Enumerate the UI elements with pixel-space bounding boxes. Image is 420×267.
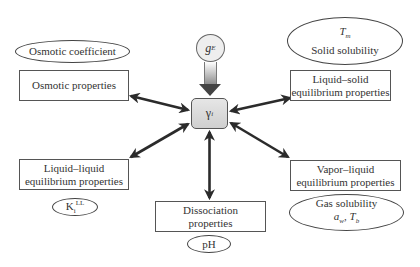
ki-ll-ellipse: KiLL	[52, 198, 98, 216]
k-subscript: i	[74, 206, 76, 214]
gas-solubility-ellipse: Gas solubility aw, Tb	[289, 194, 404, 231]
osmotic-coefficient-ellipse: Osmotic coefficient	[15, 40, 130, 63]
osmotic-coefficient-label: Osmotic coefficient	[29, 45, 116, 58]
vapor-liquid-line2: equilibrium properties	[296, 176, 394, 189]
aw-tb-label: aw, Tb	[334, 210, 359, 228]
dissociation-line2: properties	[189, 217, 233, 230]
dissociation-line1: Dissociation	[183, 204, 238, 217]
gamma-subscript: i	[211, 110, 213, 118]
gas-solubility-label: Gas solubility	[316, 197, 377, 210]
liquid-liquid-box: Liquid–liquid equilibrium properties	[19, 159, 129, 190]
vapor-liquid-line1: Vapor–liquid	[317, 163, 374, 176]
tb-subscript: b	[356, 217, 360, 225]
osmotic-properties-box: Osmotic properties	[19, 70, 129, 101]
gradient-arrow-shaft	[204, 62, 217, 85]
arrow-vapor-liquid	[231, 123, 288, 157]
arrow-liquid-solid	[231, 98, 290, 111]
tm-label: Tm	[339, 25, 350, 43]
liquid-liquid-line1: Liquid–liquid	[44, 162, 105, 175]
tm-subscript: m	[346, 33, 351, 41]
ph-label: pH	[202, 238, 215, 251]
liquid-liquid-line2: equilibrium properties	[25, 175, 123, 188]
osmotic-properties-label: Osmotic properties	[32, 79, 116, 92]
arrow-osmotic	[131, 96, 188, 110]
gradient-arrow-head	[199, 84, 221, 96]
liquid-solid-line1: Liquid–solid	[312, 73, 368, 86]
liquid-solid-line2: equilibrium properties	[291, 86, 389, 99]
k-superscript: LL	[76, 199, 85, 207]
ge-superscript: E	[211, 44, 215, 52]
arrow-liquid-liquid	[131, 124, 188, 157]
vapor-liquid-box: Vapor–liquid equilibrium properties	[290, 160, 401, 191]
ki-ll-label: KiLL	[66, 197, 84, 218]
excess-gibbs-node: gE	[196, 34, 225, 62]
solid-solubility-label: Solid solubility	[311, 44, 379, 57]
dissociation-box: Dissociation properties	[155, 201, 266, 232]
ph-ellipse: pH	[187, 235, 231, 253]
k-symbol: K	[66, 199, 74, 211]
solid-solubility-ellipse: Tm Solid solubility	[287, 17, 403, 65]
activity-coefficient-node: γi	[191, 98, 228, 129]
liquid-solid-box: Liquid–solid equilibrium properties	[290, 70, 391, 101]
